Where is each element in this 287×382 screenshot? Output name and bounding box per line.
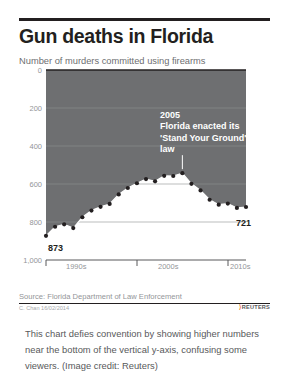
author-credit: C. Chan 16/02/2014 [19,305,69,311]
data-point [89,209,93,213]
data-point [171,174,175,178]
start-value-label: 873 [48,243,63,253]
data-point [44,234,48,238]
data-point [80,215,84,219]
y-tick-600: 600 [14,180,42,189]
y-tick-0: 0 [14,66,42,75]
x-tick-1990s: 1990s [66,262,86,271]
data-point [98,205,102,209]
data-point [126,186,130,190]
data-point [108,202,112,206]
data-point [235,206,239,210]
annotation-year: 2005 [160,110,252,121]
x-tick-2000s: 2000s [158,262,178,271]
data-point [71,226,75,230]
reuters-glyph-icon: ⟩ [239,304,241,310]
reuters-logo: ⟩REUTERS [239,304,270,310]
source-note: Source: Florida Department of Law Enforc… [19,292,270,301]
page-title: Gun deaths in Florida [19,24,279,48]
gun-deaths-area-chart [0,66,287,266]
y-tick-1000: 1,000 [7,256,42,265]
y-tick-400: 400 [14,142,42,151]
data-point [62,222,66,226]
image-caption: This chart defies convention by showing … [25,326,265,374]
data-point [144,177,148,181]
end-value-label: 721 [236,218,251,228]
title-divider [19,18,270,21]
data-point [162,174,166,178]
data-point [189,182,193,186]
data-point [153,179,157,183]
x-tick-2010s: 2010s [230,262,250,271]
reuters-wordmark: REUTERS [242,304,270,310]
data-point [53,225,57,229]
y-tick-800: 800 [14,218,42,227]
stand-your-ground-annotation: 2005 Florida enacted its 'Stand Your Gro… [160,110,252,156]
data-point [117,192,121,196]
data-point [244,205,248,209]
data-point [180,171,184,175]
chart-figure: Gun deaths in Florida Number of murders … [0,0,287,320]
data-point [208,198,212,202]
data-point [198,188,202,192]
annotation-body: Florida enacted its 'Stand Your Ground' … [160,121,252,155]
plot-area: 0 200 400 600 800 1,000 1990s 2000s 2010… [0,66,287,266]
data-point [226,201,230,205]
data-point [217,203,221,207]
data-point [135,181,139,185]
y-tick-200: 200 [14,104,42,113]
footer-divider [19,303,270,304]
